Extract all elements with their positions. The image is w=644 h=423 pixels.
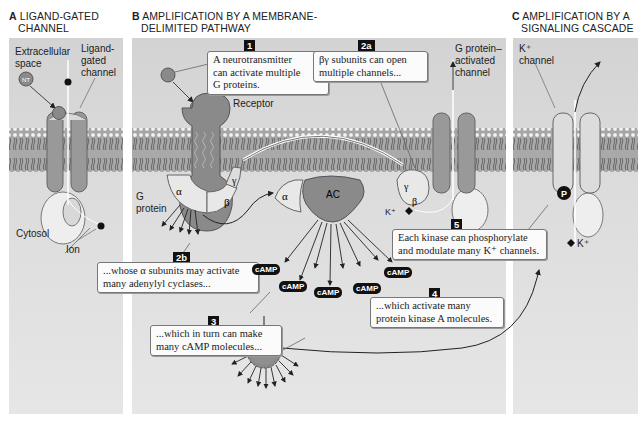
ligand-gated-channel-icon: NT — [0, 0, 105, 244]
callout-2b: ...whose α subunits may activatemany ade… — [97, 262, 259, 293]
label-k-channel: K⁺channel — [519, 43, 554, 67]
svg-text:α: α — [282, 190, 288, 202]
label-ion: Ion — [66, 244, 80, 256]
svg-text:AC: AC — [326, 189, 340, 200]
camp-badge: cAMP — [279, 281, 307, 292]
svg-text:NT: NT — [22, 77, 30, 83]
camp-badge: cAMP — [353, 283, 381, 294]
svg-text:α: α — [176, 185, 182, 197]
label-extracellular-space: Extracellularspace — [15, 46, 70, 70]
label-receptor: Receptor — [233, 98, 274, 110]
callout-3: ...which in turn can makemany cAMP molec… — [150, 325, 282, 356]
label-g-protein-activated-channel: G protein–activatedchannel — [455, 43, 502, 79]
alpha-subunit-icon — [275, 180, 303, 212]
camp-badge: cAMP — [384, 267, 412, 278]
svg-text:β: β — [224, 196, 230, 208]
svg-text:γ: γ — [231, 175, 237, 186]
k-ion-icon — [405, 207, 413, 215]
camp-badge: cAMP — [252, 264, 280, 275]
camp-badge: cAMP — [314, 287, 342, 298]
label-cytosol: Cytosol — [16, 228, 49, 240]
svg-text:β: β — [412, 196, 417, 207]
svg-text:γ: γ — [403, 181, 409, 192]
svg-text:P: P — [561, 189, 567, 199]
step-badge-2a: 2a — [358, 40, 375, 51]
callout-4: ...which activate manyprotein kinase A m… — [370, 297, 504, 328]
label-k-ion-c: K⁺ — [577, 238, 589, 250]
callout-2a: βγ subunits can openmultiple channels... — [313, 51, 428, 82]
label-k-ion-b: K⁺ — [385, 206, 396, 218]
label-g-protein: Gprotein — [136, 191, 167, 215]
callout-5: Each kinase can phosphorylateand modulat… — [392, 229, 547, 260]
callout-1: A neurotransmittercan activate multipleG… — [207, 51, 329, 95]
step-badge-1: 1 — [244, 40, 255, 51]
label-ligand-gated-channel: Ligand-gatedchannel — [81, 43, 116, 79]
membrane-a — [9, 128, 123, 172]
